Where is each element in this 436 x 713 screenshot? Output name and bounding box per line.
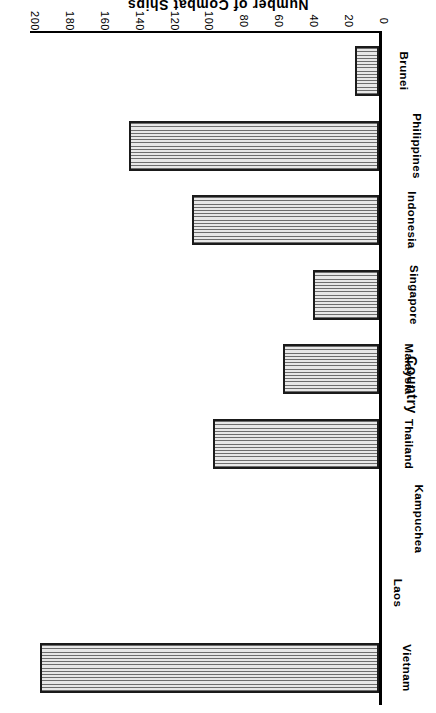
bar-slot	[30, 630, 379, 705]
value-tick-label: 200	[29, 11, 41, 31]
bar-indonesia[interactable]	[192, 195, 379, 245]
value-tick-label: 80	[238, 14, 250, 27]
category-tick-philippines: Philippines	[384, 108, 436, 183]
value-tick-label: 160	[99, 11, 111, 31]
bar-slot	[30, 332, 379, 407]
category-tick-label: Vietnam	[402, 644, 414, 691]
plot-area: 020406080100120140160180200 Number of Co…	[0, 0, 436, 713]
bar-slot	[30, 183, 379, 258]
value-tick-label: 40	[308, 14, 320, 27]
bar-thailand[interactable]	[213, 419, 379, 469]
value-tick-label: 120	[169, 11, 181, 31]
value-tick-label: 180	[64, 11, 76, 31]
value-tick-label: 0	[378, 18, 390, 25]
bar-slot	[30, 34, 379, 109]
category-tick-label: Indonesia	[407, 191, 419, 248]
value-tick-label: 20	[343, 14, 355, 27]
category-tick-label: Philippines	[411, 113, 423, 179]
category-tick-brunei: Brunei	[384, 34, 423, 109]
bar-brunei[interactable]	[355, 46, 379, 96]
bar-slot	[30, 257, 379, 332]
category-axis-title: Country	[404, 265, 420, 505]
bar-malaysia[interactable]	[283, 344, 379, 394]
bar-slot	[30, 108, 379, 183]
bar-singapore[interactable]	[313, 270, 379, 320]
bar-vietnam[interactable]	[40, 643, 379, 693]
bar-slot	[30, 556, 379, 631]
category-tick-label: Brunei	[397, 51, 409, 90]
value-tick-label: 100	[204, 11, 216, 31]
value-tick-label: 60	[273, 14, 285, 27]
bar-series	[30, 33, 379, 705]
category-tick-vietnam: Vietnam	[384, 630, 431, 705]
category-tick-laos: Laos	[384, 556, 412, 631]
category-tick-label: Laos	[392, 579, 404, 607]
category-tick-indonesia: Indonesia	[384, 183, 436, 258]
bar-slot	[30, 407, 379, 482]
value-tick-label: 140	[134, 11, 146, 31]
bar-slot	[30, 481, 379, 556]
value-axis-title: Number of Combat Ships	[0, 0, 436, 13]
bar-chart-figure: 020406080100120140160180200 Number of Co…	[0, 0, 436, 713]
bar-philippines[interactable]	[129, 121, 379, 171]
